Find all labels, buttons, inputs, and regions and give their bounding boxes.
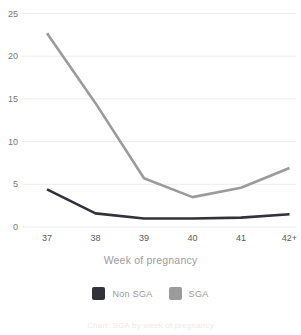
x-axis-tick-label: 38 bbox=[90, 233, 100, 243]
legend-swatch-sga bbox=[169, 287, 182, 300]
y-axis-tick-label: 25 bbox=[8, 9, 18, 19]
legend-swatch-non-sga bbox=[92, 287, 105, 300]
legend-item-non-sga: Non SGA bbox=[92, 287, 152, 300]
y-axis-tick-label: 15 bbox=[8, 94, 18, 104]
chart-legend: Non SGA SGA bbox=[0, 287, 301, 300]
chart-container: 0510152025373839404142+ Week of pregnanc… bbox=[0, 0, 301, 335]
y-axis-tick-label: 10 bbox=[8, 137, 18, 147]
series-line-sga bbox=[47, 33, 290, 197]
legend-label-non-sga: Non SGA bbox=[112, 289, 152, 299]
y-axis-tick-label: 5 bbox=[13, 179, 18, 189]
legend-label-sga: SGA bbox=[189, 289, 209, 299]
y-axis-tick-label: 20 bbox=[8, 51, 18, 61]
line-chart: 0510152025373839404142+ bbox=[0, 0, 301, 250]
x-axis-tick-label: 41 bbox=[236, 233, 246, 243]
x-axis-tick-label: 40 bbox=[187, 233, 197, 243]
x-axis-tick-label: 39 bbox=[139, 233, 149, 243]
y-axis-tick-label: 0 bbox=[13, 222, 18, 232]
series-line-non-sga bbox=[47, 189, 290, 218]
x-axis-title: Week of pregnancy bbox=[0, 254, 301, 266]
x-axis-tick-label: 42+ bbox=[282, 233, 297, 243]
legend-item-sga: SGA bbox=[169, 287, 209, 300]
x-axis-tick-label: 37 bbox=[42, 233, 52, 243]
footer-caption: Chart: SGA by week of pregnancy bbox=[0, 321, 301, 330]
